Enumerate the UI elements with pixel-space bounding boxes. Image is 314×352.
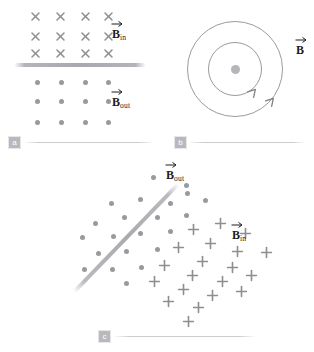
- field-out-dot-icon: [83, 80, 88, 85]
- field-into-page-plus-4: [205, 238, 216, 249]
- panel-c-badge: c: [98, 330, 111, 343]
- field-out-of-page-dot-10: [184, 213, 189, 218]
- field-out-dot-icon: [122, 215, 127, 220]
- field-into-page-plus-2: [188, 224, 199, 235]
- field-out-of-page-dot-1: [35, 80, 40, 85]
- field-out-of-page-dot-4: [138, 197, 143, 202]
- field-into-page-plus-16: [207, 290, 218, 301]
- vector-subscript: out: [174, 174, 184, 183]
- field-out-of-page-dot-9: [35, 120, 40, 125]
- field-into-page-cross-10: [56, 49, 65, 58]
- field-out-of-page-dot-21: [82, 267, 87, 272]
- field-out-dot-icon: [80, 235, 85, 240]
- field-out-of-page-dot-8: [106, 99, 111, 104]
- field-out-dot-icon: [83, 120, 88, 125]
- field-out-of-page-dot-4: [106, 80, 111, 85]
- field-out-dot-icon: [139, 265, 144, 270]
- field-out-dot-icon: [96, 251, 101, 256]
- field-into-page-plus-12: [246, 270, 257, 281]
- field-into-page-plus-5: [173, 242, 184, 253]
- field-out-of-page-dot-6: [203, 198, 208, 203]
- panel-a-badge: a: [8, 136, 21, 149]
- field-out-of-page-dot-22: [124, 281, 129, 286]
- field-out-dot-icon: [83, 99, 88, 104]
- panel-b: B b: [160, 0, 314, 155]
- field-vector-label-in: Bin: [112, 28, 126, 40]
- field-vector-label-b: B: [296, 44, 304, 56]
- field-into-page-cross-7: [81, 32, 90, 41]
- field-into-page-plus-9: [227, 262, 238, 273]
- field-out-of-page-dot-3: [184, 183, 189, 188]
- field-out-of-page-dot-7: [109, 201, 114, 206]
- field-into-page-cross-9: [31, 49, 40, 58]
- physics-figure: BinBout a B b BoutBin c: [0, 0, 314, 352]
- vector-arrow-icon: [111, 20, 123, 26]
- field-out-dot-icon: [138, 231, 143, 236]
- panel-c-stage: BoutBin: [40, 155, 314, 352]
- field-out-of-page-dot-9: [155, 215, 160, 220]
- field-into-page-plus-1: [215, 218, 226, 229]
- vector-arrow-icon: [111, 88, 123, 94]
- field-out-of-page-dot-6: [59, 99, 64, 104]
- panel-c-rule: [113, 336, 256, 337]
- field-out-of-page-dot-15: [80, 235, 85, 240]
- field-out-dot-icon: [35, 80, 40, 85]
- field-into-page-cross-12: [104, 49, 113, 58]
- vector-arrow-icon: [295, 36, 307, 42]
- field-out-of-page-dot-1: [151, 175, 156, 180]
- field-out-dot-icon: [203, 198, 208, 203]
- field-into-page-plus-11: [187, 270, 198, 281]
- vector-symbol: B: [166, 168, 174, 182]
- field-out-of-page-dot-7: [83, 99, 88, 104]
- field-out-dot-icon: [184, 213, 189, 218]
- field-out-dot-icon: [82, 267, 87, 272]
- field-out-of-page-dot-11: [93, 221, 98, 226]
- field-out-of-page-dot-17: [155, 247, 160, 252]
- vector-subscript: in: [120, 33, 126, 42]
- field-out-dot-icon: [184, 183, 189, 188]
- field-out-of-page-dot-20: [110, 267, 115, 272]
- field-boundary-line: [14, 63, 146, 67]
- field-out-dot-icon: [151, 175, 156, 180]
- field-out-of-page-dot-19: [139, 265, 144, 270]
- field-out-dot-icon: [111, 234, 116, 239]
- field-into-page-plus-20: [183, 316, 194, 327]
- field-into-page-plus-18: [163, 296, 174, 307]
- field-out-dot-icon: [106, 120, 111, 125]
- panel-c-caption: c: [98, 330, 256, 343]
- field-out-of-page-dot-2: [185, 191, 190, 196]
- field-out-of-page-dot-10: [59, 120, 64, 125]
- field-out-dot-icon: [106, 99, 111, 104]
- field-out-dot-icon: [138, 197, 143, 202]
- field-out-dot-icon: [168, 229, 173, 234]
- field-out-dot-icon: [93, 221, 98, 226]
- panel-a-rule: [23, 142, 154, 143]
- field-out-dot-icon: [59, 99, 64, 104]
- field-out-dot-icon: [59, 80, 64, 85]
- panel-b-caption: b: [174, 136, 306, 149]
- field-out-dot-icon: [168, 201, 173, 206]
- field-into-page-plus-6: [232, 246, 243, 257]
- field-boundary-line-diagonal: [73, 183, 180, 294]
- vector-subscript: in: [240, 234, 246, 243]
- field-into-page-plus-15: [178, 284, 189, 295]
- panel-b-stage: B: [160, 0, 314, 155]
- field-out-of-page-dot-8: [122, 215, 127, 220]
- vector-symbol: B: [112, 27, 120, 41]
- field-out-dot-icon: [155, 215, 160, 220]
- field-into-page-plus-14: [149, 276, 160, 287]
- vector-symbol: B: [112, 95, 120, 109]
- panel-b-badge: b: [174, 136, 187, 149]
- field-out-dot-icon: [110, 267, 115, 272]
- field-into-page-plus-10: [159, 260, 170, 271]
- field-out-dot-icon: [185, 191, 190, 196]
- field-into-page-cross-5: [31, 32, 40, 41]
- field-out-of-page-dot-3: [83, 80, 88, 85]
- field-out-of-page-dot-5: [168, 201, 173, 206]
- field-out-of-page-dot-5: [35, 99, 40, 104]
- vector-arrow-icon: [231, 221, 243, 227]
- field-out-of-page-dot-11: [83, 120, 88, 125]
- panel-a-stage: BinBout: [0, 0, 160, 155]
- field-into-page-cross-2: [56, 12, 65, 21]
- field-out-of-page-dot-14: [111, 234, 116, 239]
